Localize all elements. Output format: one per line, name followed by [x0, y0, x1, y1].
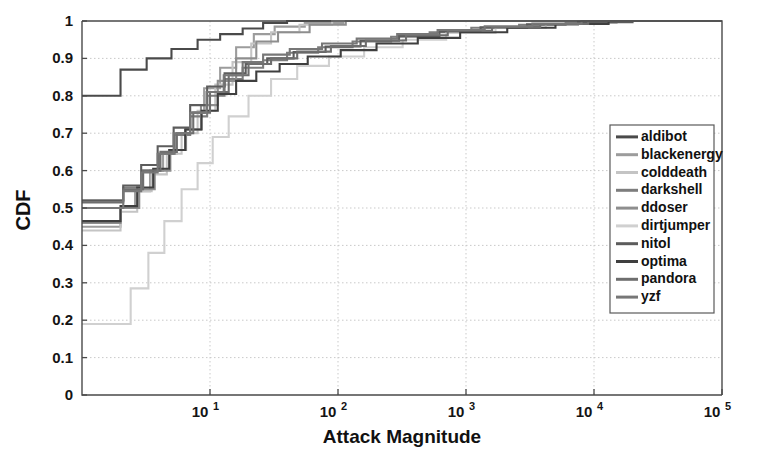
chart-figure-root: 00.10.20.30.40.50.60.70.80.9110110210310… — [0, 0, 772, 466]
x-tick-label: 104 — [576, 400, 604, 420]
legend-label-aldibot[interactable]: aldibot — [641, 128, 687, 144]
svg-text:10: 10 — [192, 403, 209, 420]
y-tick-label: 0.7 — [52, 124, 73, 141]
y-tick-label: 0.9 — [52, 49, 73, 66]
y-tick-label: 0.3 — [52, 274, 73, 291]
y-tick-label: 1 — [65, 12, 73, 29]
x-tick-label: 101 — [192, 400, 219, 420]
y-tick-label: 0.1 — [52, 349, 73, 366]
x-tick-label: 105 — [704, 400, 731, 420]
legend-label-pandora[interactable]: pandora — [641, 270, 696, 286]
cdf-line-chart: 00.10.20.30.40.50.60.70.80.9110110210310… — [0, 0, 772, 466]
legend[interactable]: aldibotblackenergycolddeathdarkshellddos… — [610, 125, 723, 313]
svg-text:10: 10 — [448, 403, 465, 420]
y-tick-label: 0 — [65, 386, 73, 403]
svg-text:2: 2 — [341, 400, 347, 412]
y-tick-label: 0.8 — [52, 87, 73, 104]
y-tick-label: 0.5 — [52, 199, 73, 216]
legend-label-yzf[interactable]: yzf — [641, 288, 661, 304]
legend-label-colddeath[interactable]: colddeath — [641, 164, 707, 180]
x-tick-label: 102 — [320, 400, 347, 420]
svg-text:10: 10 — [704, 403, 721, 420]
svg-text:10: 10 — [576, 403, 593, 420]
svg-text:10: 10 — [320, 403, 337, 420]
y-tick-label: 0.6 — [52, 162, 73, 179]
legend-label-ddoser[interactable]: ddoser — [641, 199, 688, 215]
x-axis-label: Attack Magnitude — [323, 426, 481, 447]
y-axis-label: CDF — [12, 189, 34, 230]
svg-text:5: 5 — [725, 400, 731, 412]
y-tick-label: 0.4 — [52, 236, 74, 253]
x-tick-label: 103 — [448, 400, 475, 420]
svg-text:3: 3 — [469, 400, 475, 412]
legend-label-darkshell[interactable]: darkshell — [641, 181, 702, 197]
legend-label-nitol[interactable]: nitol — [641, 235, 671, 251]
svg-text:1: 1 — [213, 400, 219, 412]
svg-text:4: 4 — [597, 400, 604, 412]
legend-label-blackenergy[interactable]: blackenergy — [641, 146, 723, 162]
legend-label-optima[interactable]: optima — [641, 253, 687, 269]
y-tick-label: 0.2 — [52, 311, 73, 328]
legend-label-dirtjumper[interactable]: dirtjumper — [641, 217, 711, 233]
